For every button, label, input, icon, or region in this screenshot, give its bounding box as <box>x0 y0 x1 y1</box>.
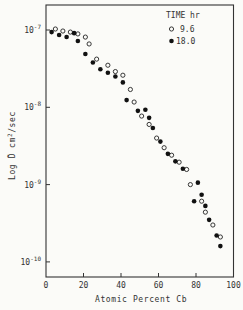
open-circle-point <box>200 199 204 203</box>
plot-frame <box>46 5 234 277</box>
x-axis-label: Atomic Percent Cb <box>95 295 187 304</box>
open-circle-point <box>132 100 136 104</box>
legend-label-18-0: 18.0 <box>176 37 195 46</box>
x-tick-label: 0 <box>44 281 49 290</box>
x-axis-ticks: 020406080100 <box>44 273 241 290</box>
diffusion-chart: 020406080100 10-710-810-910-10 TIME hr 9… <box>0 0 243 310</box>
legend-label-9-6: 9.6 <box>180 25 195 34</box>
filled-circle-point <box>147 116 152 121</box>
open-circle-point <box>113 69 117 73</box>
filled-circle-point <box>158 139 163 144</box>
open-circle-point <box>185 167 189 171</box>
open-circle-point <box>121 73 125 77</box>
filled-circle-point <box>98 67 103 72</box>
data-points <box>49 27 222 249</box>
open-circle-point <box>87 42 91 46</box>
open-circle-point <box>61 29 65 33</box>
filled-circle-point <box>199 192 204 197</box>
open-circle-point <box>68 30 72 34</box>
filled-circle-point <box>181 167 186 172</box>
open-circle-marker-icon <box>169 27 173 31</box>
x-tick-label: 100 <box>226 281 241 290</box>
filled-circle-point <box>214 233 219 238</box>
open-circle-point <box>188 183 192 187</box>
y-axis-label-prefix: Log <box>8 158 17 180</box>
y-axis-label-symbol: D̃ <box>7 153 17 158</box>
filled-circle-point <box>83 52 88 57</box>
open-circle-point <box>211 223 215 227</box>
filled-circle-point <box>49 30 54 35</box>
filled-circle-point <box>113 74 118 79</box>
filled-circle-point <box>121 80 126 85</box>
y-tick-label: 10-10 <box>21 255 42 267</box>
y-axis-label: Log D̃cm2/sec <box>6 111 17 180</box>
open-circle-point <box>53 27 57 31</box>
filled-circle-point <box>64 35 69 40</box>
open-circle-point <box>140 114 144 118</box>
filled-circle-point <box>196 180 201 185</box>
open-circle-point <box>147 122 151 126</box>
filled-circle-point <box>173 159 178 164</box>
open-circle-point <box>76 32 80 36</box>
open-circle-point <box>177 160 181 164</box>
x-tick-label: 80 <box>191 281 201 290</box>
filled-circle-point <box>207 218 212 223</box>
filled-circle-point <box>218 244 223 249</box>
open-circle-point <box>128 87 132 91</box>
y-axis-label-units-suffix: /sec <box>8 111 17 133</box>
filled-circle-point <box>72 31 77 36</box>
filled-circle-point <box>192 199 197 204</box>
y-tick-label: 10-8 <box>24 100 41 112</box>
open-circle-point <box>83 35 87 39</box>
filled-circle-point <box>166 152 171 157</box>
x-tick-label: 20 <box>79 281 89 290</box>
open-circle-point <box>106 63 110 67</box>
filled-circle-point <box>143 107 148 112</box>
y-axis-label-units: cm <box>8 137 17 148</box>
legend-title: TIME hr <box>166 11 200 20</box>
open-circle-point <box>162 146 166 150</box>
open-circle-point <box>155 136 159 140</box>
filled-circle-point <box>136 109 141 114</box>
x-tick-label: 40 <box>116 281 126 290</box>
filled-circle-point <box>91 60 96 65</box>
x-tick-label: 60 <box>154 281 164 290</box>
filled-circle-point <box>124 98 129 103</box>
y-tick-label: 10-9 <box>24 178 41 190</box>
open-circle-point <box>95 57 99 61</box>
filled-circle-point <box>76 39 81 44</box>
open-circle-point <box>203 210 207 214</box>
filled-circle-point <box>57 33 62 38</box>
filled-circle-point <box>106 70 111 75</box>
filled-circle-point <box>151 126 156 131</box>
legend: TIME hr 9.6 18.0 <box>166 11 200 46</box>
y-tick-label: 10-7 <box>24 23 41 35</box>
filled-circle-marker-icon <box>169 39 174 44</box>
filled-circle-point <box>203 204 208 209</box>
